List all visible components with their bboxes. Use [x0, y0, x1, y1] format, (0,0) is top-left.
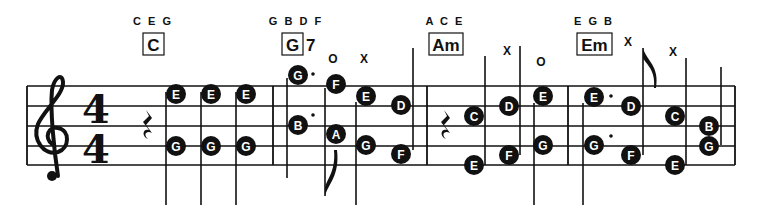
- svg-text:B: B: [705, 120, 714, 134]
- note-head: E: [166, 84, 186, 104]
- svg-text:G: G: [241, 140, 250, 154]
- svg-text:F: F: [505, 149, 512, 163]
- mute-mark: X: [669, 45, 677, 59]
- svg-text:E: E: [362, 90, 370, 104]
- note-head: G: [236, 136, 256, 156]
- svg-text:B: B: [294, 119, 303, 133]
- note-head: C: [665, 106, 685, 126]
- note-head: E: [201, 84, 221, 104]
- note-head: E: [533, 86, 553, 106]
- mute-mark: X: [503, 44, 511, 58]
- svg-text:F: F: [332, 78, 339, 92]
- svg-text:E: E: [242, 88, 250, 102]
- svg-text:E: E: [207, 88, 215, 102]
- note-head: B: [699, 116, 719, 136]
- note-head: G: [288, 65, 308, 85]
- note-head: F: [326, 74, 346, 94]
- chord-am: A C E Am: [426, 15, 465, 55]
- note-heads: E G E G E G G B F A E G D F C E D F E G …: [166, 65, 719, 175]
- note-head: E: [464, 155, 484, 175]
- eighth-flag-up-icon: [643, 48, 657, 88]
- note-head: G: [356, 135, 376, 155]
- svg-text:E: E: [470, 159, 478, 173]
- open-mark: O: [536, 55, 545, 69]
- note-head: D: [621, 96, 641, 116]
- svg-text:G: G: [206, 140, 215, 154]
- note-head: G: [533, 135, 553, 155]
- dot: [609, 94, 613, 98]
- chord-tones: A C E: [426, 15, 465, 27]
- svg-text:G: G: [171, 140, 180, 154]
- dot: [609, 134, 613, 138]
- chord-name: G: [286, 36, 299, 55]
- svg-text:E: E: [172, 88, 180, 102]
- chord-name: C: [147, 36, 159, 55]
- svg-text:F: F: [397, 148, 404, 162]
- note-head: E: [665, 155, 685, 175]
- svg-text:G: G: [589, 139, 598, 153]
- chord-tones: E G B: [574, 15, 614, 27]
- chord-em: E G B Em: [574, 15, 614, 55]
- string-marks: O X X O X X: [328, 35, 677, 69]
- svg-text:G: G: [361, 139, 370, 153]
- music-score: 4 4 C E G C G B D F G 7 A C E Am E G B E…: [0, 0, 773, 216]
- note-head: F: [391, 144, 411, 164]
- svg-text:D: D: [627, 100, 636, 114]
- chord-g7: G B D F G 7: [269, 15, 323, 55]
- svg-text:G: G: [704, 140, 713, 154]
- svg-text:C: C: [671, 110, 680, 124]
- svg-text:F: F: [627, 149, 634, 163]
- quarter-rest-icon: [143, 110, 152, 139]
- svg-text:E: E: [590, 91, 598, 105]
- eighth-flag-down-icon: [325, 150, 337, 196]
- note-head: F: [499, 145, 519, 165]
- note-head: C: [464, 106, 484, 126]
- note-head: A: [326, 124, 346, 144]
- chord-name: Am: [432, 36, 459, 55]
- svg-text:E: E: [539, 90, 547, 104]
- dot: [311, 113, 315, 117]
- svg-text:G: G: [538, 139, 547, 153]
- chord-suffix: 7: [306, 36, 315, 55]
- time-signature: 4 4: [82, 85, 110, 172]
- svg-text:C: C: [470, 110, 479, 124]
- chord-c: C E G C: [133, 15, 173, 55]
- note-head: B: [288, 115, 308, 135]
- chord-tones: C E G: [133, 15, 173, 27]
- note-head: D: [499, 96, 519, 116]
- time-signature-bottom: 4: [82, 125, 110, 172]
- dot: [311, 72, 315, 76]
- svg-text:G: G: [293, 69, 302, 83]
- note-head: G: [166, 136, 186, 156]
- note-head: E: [584, 87, 604, 107]
- open-mark: O: [328, 52, 337, 66]
- quarter-rest-icon: [441, 110, 450, 139]
- mute-mark: X: [624, 35, 632, 49]
- chord-tones: G B D F: [269, 15, 323, 27]
- svg-text:E: E: [671, 159, 679, 173]
- note-head: G: [201, 136, 221, 156]
- note-head: E: [356, 86, 376, 106]
- svg-text:A: A: [332, 128, 341, 142]
- svg-text:D: D: [397, 99, 406, 113]
- note-head: E: [236, 84, 256, 104]
- note-head: F: [621, 145, 641, 165]
- mute-mark: X: [360, 52, 368, 66]
- chord-name: Em: [581, 36, 607, 55]
- note-head: G: [584, 135, 604, 155]
- svg-text:D: D: [505, 100, 514, 114]
- note-head: G: [699, 136, 719, 156]
- note-head: D: [391, 95, 411, 115]
